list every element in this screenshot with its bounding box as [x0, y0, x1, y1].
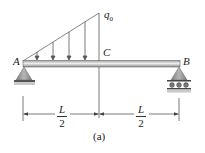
- arrowhead-icon: [99, 112, 104, 115]
- point-c-label: C: [103, 47, 110, 58]
- roller-top-plate: [167, 80, 191, 82]
- arrowhead-icon: [174, 112, 179, 115]
- dimension-lines: [23, 96, 179, 121]
- point-b-label: B: [183, 56, 190, 67]
- roller-icon: [170, 83, 175, 88]
- load-subscript: 0: [110, 15, 114, 23]
- ground-hatch: [167, 90, 191, 93]
- ground-hatch: [14, 82, 35, 85]
- arrowhead-icon: [67, 56, 71, 60]
- fraction-numerator: L: [55, 104, 69, 115]
- load-label-q0: q0: [104, 9, 113, 23]
- fraction-denominator: 2: [55, 118, 69, 129]
- arrowhead-icon: [51, 56, 55, 60]
- figure-caption: (a): [93, 131, 105, 142]
- roller-triangle-icon: [171, 67, 187, 80]
- load-arrows: [35, 22, 87, 60]
- arrowhead-icon: [35, 56, 39, 60]
- arrowhead-icon: [23, 112, 28, 115]
- pin-triangle-icon: [16, 67, 32, 80]
- point-a-label: A: [13, 56, 20, 67]
- roller-icon: [184, 83, 189, 88]
- arrowhead-icon: [83, 56, 87, 60]
- dimension-label-left: L 2: [55, 104, 69, 129]
- arrowhead-icon: [94, 112, 99, 115]
- roller-icon: [177, 83, 182, 88]
- pin-support-a: [14, 67, 35, 85]
- ground-line: [14, 80, 35, 82]
- beam-diagram: q0 C A B L 2 L 2 (a): [0, 0, 205, 153]
- dimension-label-right: L 2: [134, 104, 148, 129]
- fraction-numerator: L: [134, 104, 148, 115]
- fraction-denominator: 2: [134, 118, 148, 129]
- beam: [23, 61, 180, 68]
- load-slope-line: [23, 13, 99, 61]
- ground-line: [167, 88, 191, 90]
- roller-support-b: [167, 67, 191, 93]
